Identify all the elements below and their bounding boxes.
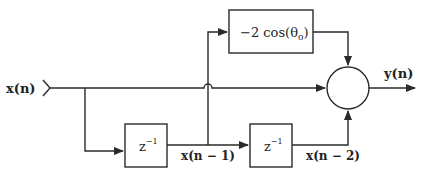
branch-to-delay1-line [85,88,123,151]
input-chevron-icon [43,80,50,96]
delay1-block-label: z−1 [139,137,158,154]
direct-path-line [50,84,325,88]
delay2-to-sum-line [292,111,348,145]
output-label: y(n) [383,66,413,81]
signal-label-x-n-1: x(n − 1) [181,149,235,163]
summing-junction [327,67,369,109]
gain-to-sum-line [313,32,348,65]
signal-label-x-n-2: x(n − 2) [306,149,360,163]
delay2-block-label: z−1 [264,137,283,154]
gain-block-label: −2 cos(θo) [240,25,308,42]
input-label: x(n) [6,81,36,96]
notch-filter-block-diagram: x(n) y(n) −2 cos(θo) z−1 z−1 x(n − 1) x(… [0,0,430,177]
